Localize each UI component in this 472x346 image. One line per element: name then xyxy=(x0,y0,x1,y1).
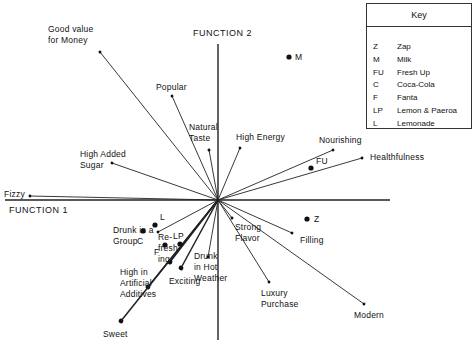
attribute-label-nourishing: Nourishing xyxy=(319,135,362,146)
legend-title: Key xyxy=(367,4,471,27)
legend-entry: LPLemon & Paeroa xyxy=(367,105,471,118)
legend-name: Zap xyxy=(397,41,471,54)
attribute-label-high-added-sugar: High Added Sugar xyxy=(80,149,126,171)
vector-healthfulness xyxy=(218,158,362,200)
vector-natural-taste xyxy=(209,150,218,200)
brand-point-m xyxy=(286,54,291,59)
attribute-label-good-value-for-money: Good value for Money xyxy=(48,24,93,46)
legend-entry: LLemonade xyxy=(367,118,471,131)
legend-key: Key ZZapMMilkFUFresh UpCCoca-ColaFFantaL… xyxy=(366,3,472,129)
attribute-label-natural-taste: Natural Taste xyxy=(189,122,218,144)
attribute-label-strong-flavor: Strong Flavor xyxy=(235,222,261,244)
legend-code: L xyxy=(367,118,397,131)
attribute-label-drunk-in-a-group: Drunk in a Group xyxy=(113,225,154,247)
brand-label-fu: FU xyxy=(316,156,328,167)
attribute-label-high-energy: High Energy xyxy=(236,132,285,143)
vector-high-added-sugar xyxy=(112,163,218,200)
legend-entry: CCoca-Cola xyxy=(367,79,471,92)
legend-entry: MMilk xyxy=(367,54,471,67)
legend-name: Lemonade xyxy=(397,118,471,131)
function-2-axis-label: FUNCTION 2 xyxy=(193,28,252,38)
attribute-label-modern: Modern xyxy=(354,310,384,321)
legend-name: Milk xyxy=(397,54,471,67)
vector-popular xyxy=(172,96,218,200)
brand-point-fu xyxy=(308,165,313,170)
brand-point-z xyxy=(304,216,309,221)
attribute-label-fizzy: Fizzy xyxy=(4,189,25,200)
attribute-label-filling: Filling xyxy=(300,235,324,246)
brand-label-c: C xyxy=(137,236,143,247)
attribute-label-healthfulness: Healthfulness xyxy=(370,152,424,163)
legend-code: F xyxy=(367,92,397,105)
legend-entry: FFanta xyxy=(367,92,471,105)
legend-code: M xyxy=(367,54,397,67)
function-1-axis-label: FUNCTION 1 xyxy=(9,205,68,215)
attribute-label-sweet: Sweet xyxy=(103,329,128,340)
attribute-label-high-in-artificial-additives: High in Artificial Additives xyxy=(120,267,156,300)
legend-name: Lemon & Paeroa xyxy=(397,105,471,118)
brand-label-z: Z xyxy=(314,214,319,225)
legend-code: C xyxy=(367,79,397,92)
attribute-label-popular: Popular xyxy=(156,82,187,93)
legend-entry: FUFresh Up xyxy=(367,67,471,80)
brand-label-m: M xyxy=(295,52,302,63)
legend-name: Fanta xyxy=(397,92,471,105)
legend-code: FU xyxy=(367,67,397,80)
legend-name: Coca-Cola xyxy=(397,79,471,92)
legend-entry: ZZap xyxy=(367,41,471,54)
brand-label-f: F xyxy=(154,247,159,258)
legend-code: LP xyxy=(367,105,397,118)
attribute-label-exciting: Exciting xyxy=(169,276,200,287)
brand-label-l: L xyxy=(160,212,165,223)
brand-label-lp: LP xyxy=(173,231,184,242)
attribute-label-luxury-purchase: Luxury Purchase xyxy=(261,288,299,310)
legend-name: Fresh Up xyxy=(397,67,471,80)
legend-code: Z xyxy=(367,41,397,54)
